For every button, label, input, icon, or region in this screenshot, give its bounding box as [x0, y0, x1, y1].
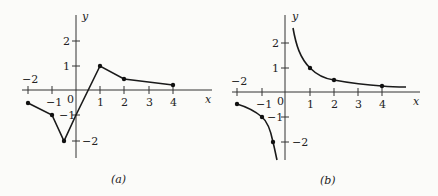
y-tick-label: −2	[82, 135, 98, 148]
y-axis-label: y	[81, 10, 89, 23]
y-tick-label: 2	[272, 37, 279, 50]
origin-label: 0	[277, 95, 284, 108]
x-axis-label: x	[205, 93, 212, 106]
x-tick-label: 4	[379, 98, 386, 111]
x-tick-label: 1	[97, 96, 104, 109]
x-tick-label: −2	[22, 73, 38, 86]
x-tick-label: 3	[146, 96, 153, 109]
x-tick-label: −1	[46, 96, 62, 109]
y-tick-label: −2	[292, 136, 308, 149]
x-tick-label: −1	[256, 98, 272, 111]
figure-canvas: −2 −1 1 2 3 4 0 2 1 −1 −2 y x (a)	[0, 0, 438, 196]
y-tick-label: −1	[59, 109, 75, 122]
graph-a: −2 −1 1 2 3 4 0 2 1 −1 −2 y x (a)	[22, 10, 212, 186]
x-tick-label: −2	[231, 75, 247, 88]
caption-a: (a)	[111, 173, 126, 186]
graph-b: −2 −1 1 2 3 4 0 2 1 −1 −2 y x (b)	[231, 10, 420, 187]
origin-label: 0	[67, 93, 74, 106]
x-tick-label: 1	[307, 98, 314, 111]
x-axis-label: x	[413, 95, 420, 108]
hyperbola-positive-branch	[293, 28, 406, 87]
y-tick-label: 1	[272, 62, 279, 75]
x-tick-label: 3	[355, 98, 362, 111]
x-tick-label: 4	[170, 96, 177, 109]
x-tick-label: 2	[121, 96, 128, 109]
x-tick-label: 2	[331, 98, 338, 111]
y-tick-label: −1	[267, 111, 283, 124]
y-axis-label: y	[291, 10, 299, 23]
y-tick-label: 1	[63, 60, 70, 73]
caption-b: (b)	[320, 174, 336, 187]
y-tick-label: 2	[63, 35, 70, 48]
